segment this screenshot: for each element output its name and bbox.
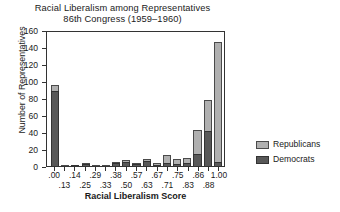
bar-segment-democrats[interactable] (153, 165, 161, 167)
bar-segment-republicans[interactable] (61, 165, 69, 167)
legend-item[interactable]: Democrats (256, 153, 320, 166)
x-tick-label: .75 (172, 171, 184, 180)
stacked-bar[interactable] (163, 155, 171, 166)
plot-area (46, 31, 225, 167)
bar-slot (50, 32, 60, 166)
x-tick-label: .83 (182, 181, 194, 190)
bar-slot (131, 32, 141, 166)
stacked-bar[interactable] (183, 158, 191, 166)
y-tick-label: 120 (24, 61, 38, 69)
bar-segment-democrats[interactable] (163, 163, 171, 166)
bar-slot (192, 32, 202, 166)
bar-segment-democrats[interactable] (214, 162, 222, 166)
bar-slot (213, 32, 223, 166)
bar-slot (101, 32, 111, 166)
chart-subtitle: 86th Congress (1959–1960) (0, 14, 245, 25)
stacked-bar[interactable] (173, 159, 181, 166)
x-tick-label: .33 (100, 181, 112, 190)
y-tick-label: 60 (28, 112, 38, 120)
page-title: Racial Liberalism among Representatives (0, 3, 245, 14)
x-tick-label: .29 (90, 171, 102, 180)
bar-slot (111, 32, 121, 166)
stacked-bar[interactable] (214, 42, 222, 166)
bar-slot (162, 32, 172, 166)
stacked-bar[interactable] (61, 165, 69, 167)
bar-segment-democrats[interactable] (71, 165, 79, 167)
x-tick-label: 1.00 (211, 171, 227, 180)
x-tick-label: .14 (69, 171, 81, 180)
bar-group (47, 32, 224, 166)
y-tick-label: 40 (28, 129, 38, 137)
stacked-bar[interactable] (204, 100, 212, 166)
bar-slot (152, 32, 162, 166)
stacked-bar[interactable] (82, 163, 90, 166)
bar-segment-democrats[interactable] (132, 164, 140, 166)
bar-segment-republicans[interactable] (193, 130, 201, 154)
bar-segment-republicans[interactable] (214, 42, 222, 162)
y-tick-label: 80 (28, 95, 38, 103)
bar-slot (81, 32, 91, 166)
y-tick-label: 160 (24, 27, 38, 35)
bar-slot (172, 32, 182, 166)
democrats-swatch (256, 156, 269, 164)
y-axis: Number of Representatives 16014012010080… (0, 31, 46, 167)
x-tick-label: .00 (48, 171, 60, 180)
stacked-bar[interactable] (193, 130, 201, 166)
stacked-bar[interactable] (92, 165, 100, 167)
bar-segment-democrats[interactable] (183, 163, 191, 166)
x-axis: .00.13.14.25.29.33.38.50.57.63.67.71.75.… (46, 167, 225, 212)
x-tick-label: .50 (120, 181, 132, 190)
x-tick-label: .71 (162, 181, 174, 190)
bar-slot (91, 32, 101, 166)
stacked-bar[interactable] (71, 165, 79, 167)
bar-segment-democrats[interactable] (82, 164, 90, 166)
bar-slot (203, 32, 213, 166)
y-tick-label: 140 (24, 44, 38, 52)
stacked-bar[interactable] (51, 85, 59, 166)
x-tick-label: .13 (59, 181, 71, 190)
bar-slot (182, 32, 192, 166)
x-tick-label-group: .00.13.14.25.29.33.38.50.57.63.67.71.75.… (46, 171, 225, 193)
bar-segment-republicans[interactable] (92, 165, 100, 167)
legend-label: Republicans (273, 140, 320, 149)
x-tick-label: .38 (110, 171, 122, 180)
x-tick-label: .25 (79, 181, 91, 190)
stacked-bar[interactable] (132, 163, 140, 166)
x-tick-label: .88 (203, 181, 215, 190)
x-tick-label: .63 (141, 181, 153, 190)
x-tick-label: .67 (151, 171, 163, 180)
bar-segment-republicans[interactable] (102, 165, 110, 167)
x-axis-title: Racial Liberalism Score (46, 191, 225, 201)
bar-segment-democrats[interactable] (173, 164, 181, 166)
bar-segment-democrats[interactable] (51, 91, 59, 166)
stacked-bar[interactable] (102, 165, 110, 167)
bar-segment-democrats[interactable] (122, 162, 130, 166)
bar-segment-democrats[interactable] (112, 163, 120, 166)
x-tick-label: .86 (192, 171, 204, 180)
bar-segment-republicans[interactable] (163, 155, 171, 163)
bar-segment-democrats[interactable] (143, 161, 151, 166)
stacked-bar[interactable] (143, 159, 151, 166)
republicans-swatch (256, 141, 269, 149)
legend-label: Democrats (273, 155, 315, 164)
chart-title-block: Racial Liberalism among Representatives … (0, 3, 245, 25)
y-tick-label: 20 (28, 146, 38, 154)
bar-slot (70, 32, 80, 166)
x-tick-label-slot: 1.00 (214, 171, 224, 193)
bar-slot (121, 32, 131, 166)
chart-root: Racial Liberalism among Representatives … (0, 0, 340, 212)
y-tick-label: 0 (33, 163, 38, 171)
bar-slot (142, 32, 152, 166)
x-tick-label: .57 (131, 171, 143, 180)
y-tick-label: 100 (24, 78, 38, 86)
legend-item[interactable]: Republicans (256, 138, 320, 151)
bar-segment-republicans[interactable] (204, 100, 212, 131)
bar-segment-democrats[interactable] (204, 131, 212, 166)
stacked-bar[interactable] (112, 162, 120, 166)
bar-slot (60, 32, 70, 166)
stacked-bar[interactable] (153, 163, 161, 166)
stacked-bar[interactable] (122, 160, 130, 166)
bar-segment-democrats[interactable] (193, 154, 201, 166)
plot-inner (47, 32, 224, 166)
chart-legend: RepublicansDemocrats (256, 138, 320, 168)
